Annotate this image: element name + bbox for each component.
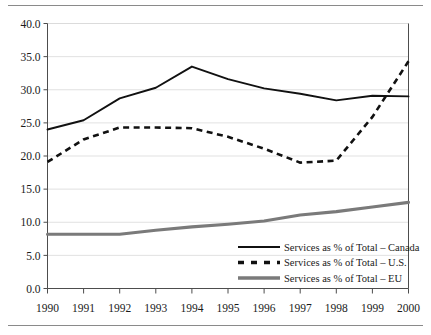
x-axis-tick-label: 1996 [253, 302, 276, 314]
x-axis-ticks-group [48, 289, 409, 294]
legend-item: Services as % of Total – EU [238, 273, 402, 284]
y-axis-tick-label: 35.0 [20, 51, 40, 63]
y-axis-tick-label: 0.0 [26, 283, 41, 295]
x-axis-tick-label: 1994 [180, 302, 203, 314]
x-axis-tick-label: 1995 [217, 302, 240, 314]
x-axis-tick-label: 1990 [36, 302, 59, 314]
x-axis-tick-label: 2000 [397, 302, 420, 314]
series-line-canada [48, 67, 409, 130]
y-axis-tick-label: 20.0 [20, 150, 40, 162]
x-axis-tick-label: 1991 [72, 302, 95, 314]
x-axis-tick-labels-group: 1990199119921993199419951996199719981999… [36, 302, 420, 314]
series-line-eu [48, 202, 409, 234]
chart-figure: 0.05.010.015.020.025.030.035.040.0 19901… [0, 0, 431, 335]
y-axis-tick-label: 30.0 [20, 84, 40, 96]
legend-item: Services as % of Total – U.S. [238, 257, 407, 268]
y-axis-tick-label: 40.0 [20, 18, 40, 30]
x-axis-tick-label: 1999 [361, 302, 384, 314]
y-axis-tick-labels-group: 0.05.010.015.020.025.030.035.040.0 [20, 18, 40, 295]
y-axis-ticks-group [44, 24, 48, 289]
x-axis-tick-label: 1998 [325, 302, 348, 314]
legend-item-label: Services as % of Total – EU [284, 273, 402, 284]
y-axis-tick-label: 15.0 [20, 183, 40, 195]
legend-item-label: Services as % of Total – Canada [284, 242, 420, 253]
legend-item-label: Services as % of Total – U.S. [284, 257, 407, 268]
x-axis-tick-label: 1997 [289, 302, 312, 314]
line-chart-canvas: 0.05.010.015.020.025.030.035.040.0 19901… [0, 0, 431, 335]
legend: Services as % of Total – CanadaServices … [238, 242, 420, 284]
legend-item: Services as % of Total – Canada [238, 242, 420, 253]
y-axis-tick-label: 5.0 [26, 250, 41, 262]
y-axis-tick-label: 25.0 [20, 117, 40, 129]
y-axis-tick-label: 10.0 [20, 216, 40, 228]
series-line-us [48, 61, 409, 162]
x-axis-tick-label: 1993 [144, 302, 167, 314]
x-axis-tick-label: 1992 [108, 302, 131, 314]
